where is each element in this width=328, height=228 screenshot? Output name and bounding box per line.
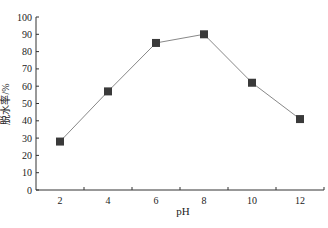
x-axis-label: pH bbox=[176, 205, 190, 217]
y-tick-label: 50 bbox=[22, 98, 32, 109]
y-tick-label: 70 bbox=[22, 63, 32, 74]
x-tick-label: 4 bbox=[106, 195, 111, 206]
axes bbox=[36, 17, 324, 190]
x-tick-label: 6 bbox=[154, 195, 159, 206]
data-point-marker bbox=[200, 30, 208, 38]
series-line bbox=[60, 34, 300, 141]
line-chart: 0102030405060708090100 24681012 pH 脱水率/% bbox=[0, 0, 328, 228]
y-tick-label: 40 bbox=[22, 115, 32, 126]
y-tick-label: 0 bbox=[27, 185, 32, 196]
x-tick-label: 8 bbox=[202, 195, 207, 206]
x-tick-label: 10 bbox=[247, 195, 257, 206]
y-tick-label: 90 bbox=[22, 29, 32, 40]
y-tick-label: 60 bbox=[22, 81, 32, 92]
y-tick-label: 30 bbox=[22, 133, 32, 144]
y-axis-label: 脱水率/% bbox=[0, 83, 11, 124]
data-series bbox=[56, 30, 304, 145]
x-tick-label: 12 bbox=[295, 195, 305, 206]
data-point-marker bbox=[56, 138, 64, 146]
data-point-marker bbox=[104, 87, 112, 95]
x-tick-label: 2 bbox=[58, 195, 63, 206]
data-point-marker bbox=[152, 39, 160, 47]
y-tick-label: 10 bbox=[22, 167, 32, 178]
y-tick-label: 20 bbox=[22, 150, 32, 161]
y-tick-label: 100 bbox=[17, 12, 32, 23]
data-point-marker bbox=[248, 79, 256, 87]
y-tick-label: 80 bbox=[22, 46, 32, 57]
data-point-marker bbox=[296, 115, 304, 123]
